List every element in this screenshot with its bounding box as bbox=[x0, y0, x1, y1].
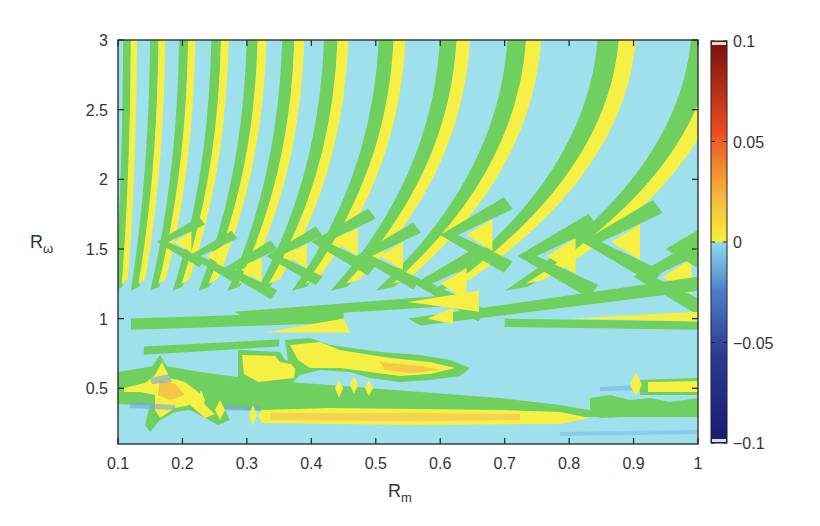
x-tick-label: 0.4 bbox=[300, 455, 322, 472]
x-tick-label: 0.3 bbox=[236, 455, 258, 472]
colorbar-tick-label: 0 bbox=[733, 234, 742, 251]
colorbar-tick-label: −0.05 bbox=[733, 335, 774, 352]
y-axis-label: Rω bbox=[30, 232, 53, 256]
colorbar-tick-label: 0.05 bbox=[733, 134, 764, 151]
y-tick-label: 2.5 bbox=[86, 102, 108, 119]
colorbar: 0.10.050−0.05−0.1 bbox=[711, 33, 774, 452]
plot-area bbox=[115, 33, 747, 444]
x-tick-label: 0.1 bbox=[107, 455, 129, 472]
contour-chart: 0.10.20.30.40.50.60.70.80.91 0.511.522.5… bbox=[0, 0, 820, 526]
y-tick-label: 0.5 bbox=[86, 380, 108, 397]
colorbar-tick-label: 0.1 bbox=[733, 33, 755, 50]
x-tick-label: 0.8 bbox=[558, 455, 580, 472]
x-tick-label: 0.9 bbox=[622, 455, 644, 472]
x-tick-label: 0.6 bbox=[429, 455, 451, 472]
x-tick-label: 1 bbox=[694, 455, 703, 472]
y-tick-label: 3 bbox=[99, 32, 108, 49]
y-tick-label: 1 bbox=[99, 311, 108, 328]
x-axis-label: Rm bbox=[388, 481, 412, 505]
x-tick-label: 0.5 bbox=[365, 455, 387, 472]
y-tick-label: 2 bbox=[99, 171, 108, 188]
x-tick-label: 0.2 bbox=[171, 455, 193, 472]
y-tick-label: 1.5 bbox=[86, 241, 108, 258]
colorbar-tick-label: −0.1 bbox=[733, 435, 765, 452]
x-tick-label: 0.7 bbox=[494, 455, 516, 472]
